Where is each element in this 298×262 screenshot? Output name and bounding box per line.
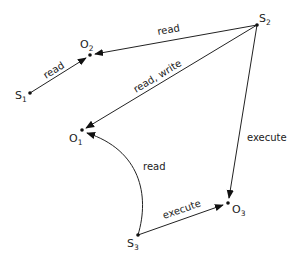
node-dot-s3 <box>136 233 140 237</box>
edge-label-s2-o3: execute <box>247 132 287 143</box>
node-label-s1: S1 <box>15 89 27 104</box>
access-graph-diagram: S1 S2 S3 O1 O2 O3 read read read, write … <box>0 0 298 262</box>
edge-s3-o1 <box>87 133 143 235</box>
edge-s2-o3 <box>229 25 257 198</box>
node-dot-o2 <box>88 53 92 57</box>
node-label-o1: O1 <box>69 132 83 147</box>
edge-label-s3-o3: execute <box>161 198 202 221</box>
node-label-o2: O2 <box>80 38 94 53</box>
edge-label-s2-o2: read <box>156 22 180 37</box>
node-label-s2: S2 <box>259 12 271 27</box>
edge-label-s3-o1: read <box>143 161 166 172</box>
node-label-s3: S3 <box>127 237 139 252</box>
edge-label-s1-o2: read <box>41 59 66 80</box>
node-dot-s1 <box>28 91 32 95</box>
node-label-o3: O3 <box>232 203 246 218</box>
node-dot-o3 <box>226 201 230 205</box>
node-dot-o1 <box>80 128 84 132</box>
edge-label-s2-o1: read, write <box>131 57 183 94</box>
